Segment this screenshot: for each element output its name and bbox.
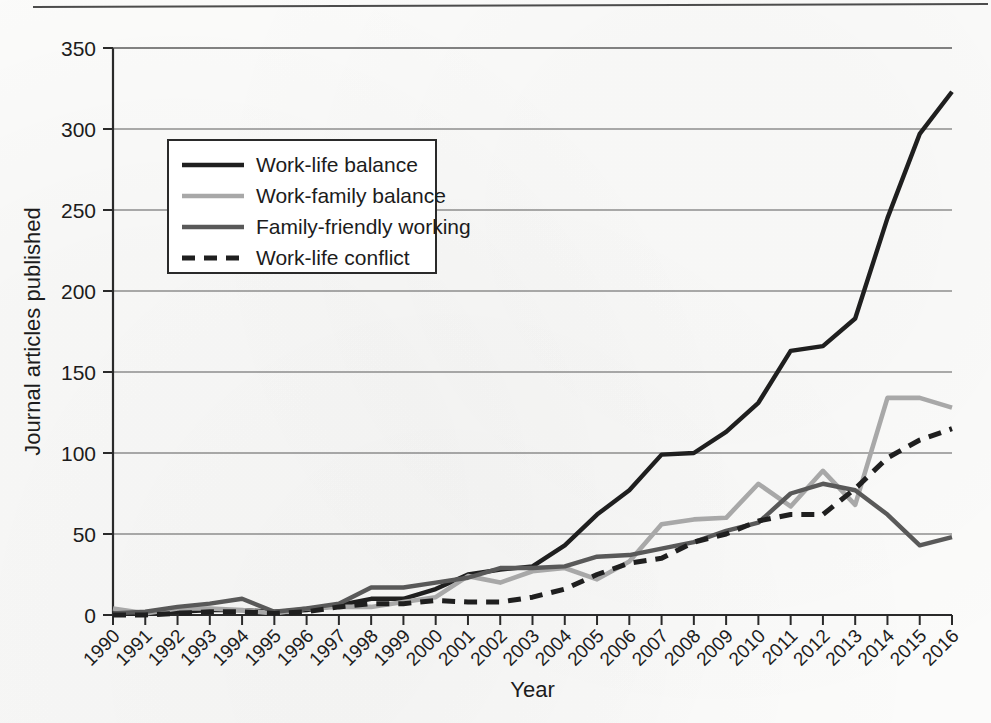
x-tick-label: 2005 — [563, 625, 608, 670]
legend-label-1: Work-family balance — [256, 184, 446, 207]
x-tick-label: 2013 — [821, 625, 866, 670]
x-tick-label: 1996 — [273, 625, 318, 670]
y-tick-label: 50 — [73, 523, 96, 546]
x-tick-label: 2009 — [692, 625, 737, 670]
line-chart: 050100150200250300350 199019911992199319… — [0, 0, 991, 723]
x-tick-label: 2004 — [531, 625, 576, 670]
series-line-2 — [113, 484, 952, 614]
y-tick-label: 0 — [84, 604, 96, 627]
y-tick-label: 300 — [61, 118, 96, 141]
y-tick-label: 250 — [61, 199, 96, 222]
x-tick-label: 1992 — [144, 625, 189, 670]
chart-svg: 050100150200250300350 199019911992199319… — [0, 0, 991, 723]
x-tick-label: 2001 — [434, 625, 479, 670]
x-tick-label: 1991 — [111, 625, 156, 670]
y-axis-ticks: 050100150200250300350 — [61, 37, 113, 627]
x-tick-label: 2003 — [499, 625, 544, 670]
figure-page: 050100150200250300350 199019911992199319… — [0, 0, 991, 723]
x-tick-label: 2007 — [628, 625, 673, 670]
y-tick-label: 350 — [61, 37, 96, 60]
x-tick-label: 1998 — [337, 625, 382, 670]
y-tick-label: 150 — [61, 361, 96, 384]
legend-label-2: Family-friendly working — [256, 215, 471, 238]
x-tick-label: 1997 — [305, 625, 350, 670]
x-tick-label: 1993 — [176, 625, 221, 670]
x-tick-label: 1990 — [79, 625, 124, 670]
x-axis-title: Year — [510, 677, 554, 702]
series-line-1 — [113, 398, 952, 613]
x-tick-label: 1995 — [240, 625, 285, 670]
x-tick-label: 2016 — [918, 625, 963, 670]
y-tick-label: 100 — [61, 442, 96, 465]
x-tick-label: 2006 — [595, 625, 640, 670]
chart-legend: Work-life balanceWork-family balanceFami… — [168, 140, 471, 273]
x-tick-label: 2008 — [660, 625, 705, 670]
x-axis-ticks: 1990199119921993199419951996199719981999… — [79, 615, 963, 670]
legend-label-0: Work-life balance — [256, 153, 418, 176]
y-tick-label: 200 — [61, 280, 96, 303]
x-tick-label: 2014 — [854, 625, 899, 670]
legend-label-3: Work-life conflict — [256, 246, 410, 269]
gridlines — [113, 48, 952, 534]
x-tick-label: 2010 — [724, 625, 769, 670]
axes — [113, 48, 952, 615]
x-tick-label: 2015 — [886, 625, 931, 670]
x-tick-label: 1999 — [370, 625, 415, 670]
x-tick-label: 1994 — [208, 625, 253, 670]
series-line-3 — [113, 429, 952, 615]
x-tick-label: 2000 — [402, 625, 447, 670]
x-tick-label: 2012 — [789, 625, 834, 670]
y-axis-title: Journal articles published — [20, 207, 45, 455]
x-tick-label: 2002 — [466, 625, 511, 670]
